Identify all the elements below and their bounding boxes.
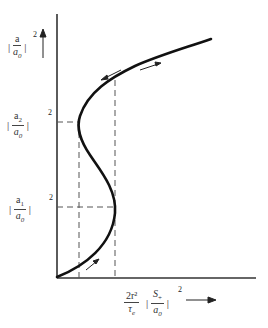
y-tick-a2-label: | a2 a0 | (7, 111, 29, 140)
x-axis-arrow-icon (186, 297, 216, 303)
y-tick-a1-power: 2 (49, 193, 53, 202)
x-axis-label: 2r² τe | S+ a0 | (124, 289, 169, 318)
diagram-canvas (0, 0, 268, 328)
y-axis-label-num: a (13, 34, 21, 46)
x-axis-label-power: 2 (178, 285, 182, 294)
y-axis-arrow-icon (40, 29, 46, 58)
y-axis-label: | a a0 | (8, 34, 26, 60)
y-tick-a1-label: | a1 a0 | (9, 195, 31, 224)
y-axis-label-power: 2 (33, 30, 37, 39)
response-curve (57, 39, 211, 277)
y-tick-a2-power: 2 (48, 108, 52, 117)
